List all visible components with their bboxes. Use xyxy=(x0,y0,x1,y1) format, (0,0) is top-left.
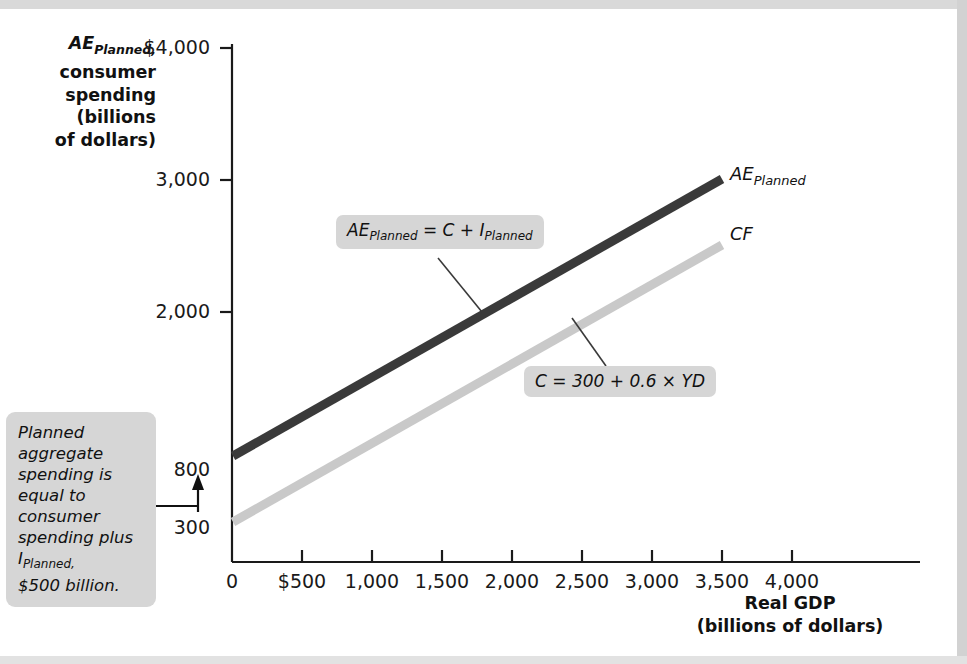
callout-line-4: equal to xyxy=(18,486,86,505)
ae-equation-sub2: Planned xyxy=(485,229,533,243)
callout-line-2: aggregate xyxy=(18,444,103,463)
x-tick-label-1500: 1,500 xyxy=(402,570,482,592)
x-axis-label: Real GDP (billions of dollars) xyxy=(640,592,940,638)
callout-line-1: Planned xyxy=(18,423,84,442)
ae-equation-annotation: AEPlanned = C + IPlanned xyxy=(336,215,544,249)
x-tick-label-2500: 2,500 xyxy=(542,570,622,592)
y-axis-ticks xyxy=(220,48,232,312)
callout-line-6: spending plus xyxy=(18,528,133,547)
x-axis-label-line2: (billions of dollars) xyxy=(697,616,884,636)
callout-line-7-sub: Planned, xyxy=(23,557,75,571)
y-axis-label-main: AE xyxy=(69,33,95,53)
x-tick-label-3500: 3,500 xyxy=(682,570,762,592)
y-tick-label-2000: 2,000 xyxy=(100,300,210,322)
x-axis-label-line1: Real GDP xyxy=(745,593,836,613)
ae-equation-leader-line xyxy=(438,258,482,312)
x-tick-label-1000: 1,000 xyxy=(332,570,412,592)
y-tick-label-4000: $4,000 xyxy=(100,36,210,58)
figure-container: AEPlanned, consumer spending (billions o… xyxy=(0,0,967,664)
x-tick-label-0: 0 xyxy=(202,570,262,592)
ae-equation-main: AE xyxy=(347,220,369,240)
ae-curve-label-sub: Planned xyxy=(754,173,806,188)
y-tick-label-3000: 3,000 xyxy=(100,168,210,190)
y-axis-label-line3: spending xyxy=(65,85,156,105)
investment-callout: Planned aggregate spending is equal to c… xyxy=(6,412,156,607)
callout-line-3: spending is xyxy=(18,465,112,484)
ae-curve-label-main: AE xyxy=(730,163,754,184)
x-tick-label-500: $500 xyxy=(262,570,342,592)
y-axis-label-line2: consumer xyxy=(60,62,156,82)
x-axis-ticks xyxy=(302,550,792,562)
callout-line-5: consumer xyxy=(18,507,100,526)
x-tick-label-3000: 3,000 xyxy=(612,570,692,592)
x-tick-label-2000: 2,000 xyxy=(472,570,552,592)
y-axis-label-line4: (billions xyxy=(77,107,156,127)
x-tick-label-4000: 4,000 xyxy=(752,570,832,592)
ae-equation-sub: Planned xyxy=(369,229,417,243)
callout-line-8: $500 billion. xyxy=(18,576,120,595)
cf-curve-label: CF xyxy=(730,223,753,244)
ae-equation-rest: = C + I xyxy=(418,220,485,240)
y-axis-label-line5: of dollars) xyxy=(55,130,156,150)
ae-planned-curve-label: AEPlanned xyxy=(730,163,806,188)
c-equation-annotation: C = 300 + 0.6 × YD xyxy=(524,366,716,397)
